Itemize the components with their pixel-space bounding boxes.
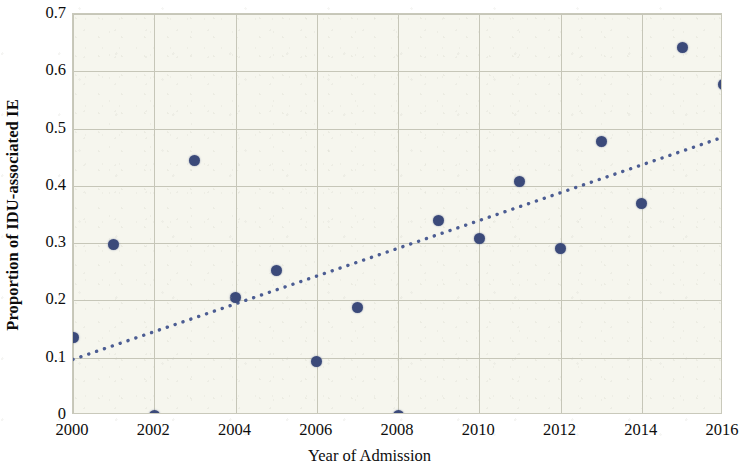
y-axis-tick-label: 0.2 [22, 289, 66, 309]
x-axis-tick-labels: 200020022004200620082010201220142016 [0, 420, 739, 446]
data-point [636, 198, 647, 209]
x-axis-tick-label: 2016 [706, 420, 739, 440]
data-point [352, 302, 363, 313]
x-axis-tick-label: 2010 [462, 420, 495, 440]
plot-area [72, 13, 722, 414]
y-axis-tick-labels: 00.10.20.30.40.50.60.7 [18, 0, 66, 466]
chart-figure: Proportion of IDU-associated IE 00.10.20… [0, 0, 739, 466]
y-axis-tick-label: 0.7 [22, 3, 66, 23]
data-point [393, 410, 404, 415]
trendline [73, 14, 722, 414]
x-axis-tick-label: 2008 [381, 420, 414, 440]
y-axis-tick-label: 0.3 [22, 232, 66, 252]
y-axis-tick-label: 0.6 [22, 60, 66, 80]
y-axis-tick-label: 0.1 [22, 347, 66, 367]
y-axis-tick-label: 0.5 [22, 118, 66, 138]
data-point [596, 136, 607, 147]
data-point [189, 155, 200, 166]
data-point [474, 233, 485, 244]
x-axis-tick-label: 2006 [299, 420, 332, 440]
x-axis-tick-label: 2004 [218, 420, 251, 440]
x-axis-tick-label: 2000 [56, 420, 89, 440]
data-point [230, 292, 241, 303]
y-axis-tick-label: 0.4 [22, 175, 66, 195]
x-axis-tick-label: 2002 [137, 420, 170, 440]
data-point [677, 42, 688, 53]
data-point [271, 265, 282, 276]
data-point [433, 215, 444, 226]
x-axis-tick-label: 2014 [624, 420, 657, 440]
x-axis-tick-label: 2012 [543, 420, 576, 440]
x-axis-title: Year of Admission [0, 446, 739, 466]
